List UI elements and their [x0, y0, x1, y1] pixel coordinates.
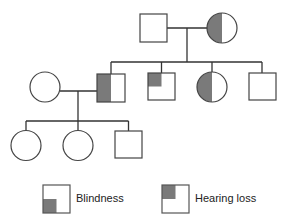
individual-I-1-male	[140, 14, 167, 42]
legend-blindness-label: Blindness	[76, 192, 124, 205]
individual-II-4-male	[249, 73, 276, 100]
individual-I-2-female-affected	[207, 13, 237, 43]
individual-II-1-male-affected	[97, 74, 125, 102]
individual-II-3-female-affected	[197, 72, 227, 102]
individual-II-2-male-hearing-loss	[148, 73, 175, 100]
legend-blindness-symbol	[43, 185, 70, 213]
individual-III-1-female	[11, 131, 41, 161]
legend-hearing-loss-symbol	[162, 185, 189, 213]
connector-lines	[26, 28, 262, 131]
legend-hearing-loss-label: Hearing loss	[195, 192, 256, 205]
individual-II-spouse-female	[30, 72, 60, 102]
individual-III-2-female	[63, 131, 93, 161]
individual-III-3-male	[115, 131, 142, 158]
pedigree-chart	[0, 0, 283, 224]
